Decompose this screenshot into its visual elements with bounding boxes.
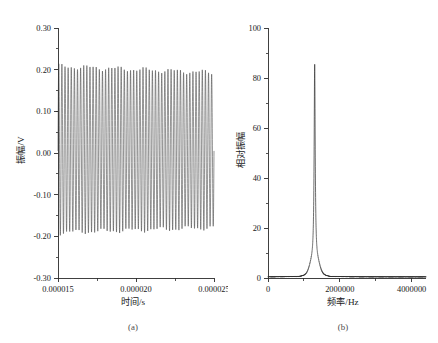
panel-a-y-axis-title: 振幅/V [15,136,26,164]
figure-container: -0.30-0.20-0.100.000.100.200.30 0.000015… [0,0,438,343]
svg-text:-0.30: -0.30 [34,274,51,283]
panel-a-svg: -0.30-0.20-0.100.000.100.200.30 0.000015… [0,0,228,343]
panel-b-tick-marks [264,28,412,282]
svg-text:0.000020: 0.000020 [120,285,151,294]
svg-text:0.20: 0.20 [36,66,51,75]
svg-text:0.00: 0.00 [36,149,51,158]
svg-text:0.000015: 0.000015 [42,285,73,294]
panel-b-spectrum: 020406080100 020000004000000 相对振幅 频率/Hz … [228,0,438,343]
svg-text:20: 20 [253,224,261,233]
svg-text:80: 80 [253,74,261,83]
svg-text:0.000025: 0.000025 [198,285,228,294]
svg-text:0.30: 0.30 [36,24,51,33]
svg-text:0: 0 [257,274,261,283]
panel-a-x-tick-labels: 0.0000150.0000200.000025 [42,285,228,294]
panel-b-svg: 020406080100 020000004000000 相对振幅 频率/Hz … [228,0,438,343]
panel-a-x-axis-title: 时间/s [121,296,146,307]
svg-text:2000000: 2000000 [325,285,354,294]
panel-b-y-tick-labels: 020406080100 [248,24,261,283]
svg-text:0: 0 [266,285,270,294]
svg-text:4000000: 4000000 [397,285,426,294]
panel-b-spectrum-trace [268,64,426,277]
svg-text:-0.20: -0.20 [34,232,51,241]
svg-text:100: 100 [248,24,261,33]
svg-text:40: 40 [253,174,261,183]
panel-a-y-tick-labels: -0.30-0.20-0.100.000.100.200.30 [34,24,51,283]
panel-b-x-axis-title: 频率/Hz [327,296,358,307]
panel-a-waveform-trace [58,64,214,236]
svg-text:0.10: 0.10 [36,107,51,116]
panel-a-waveform: -0.30-0.20-0.100.000.100.200.30 0.000015… [0,0,228,343]
panel-b-y-axis-title: 相对振幅 [235,132,246,168]
panel-a-caption: (a) [128,322,138,332]
svg-text:60: 60 [253,124,261,133]
svg-text:-0.10: -0.10 [34,191,51,200]
panel-b-caption: (b) [338,322,348,332]
panel-a-tick-marks [54,28,214,282]
panel-b-x-tick-labels: 020000004000000 [266,285,426,294]
